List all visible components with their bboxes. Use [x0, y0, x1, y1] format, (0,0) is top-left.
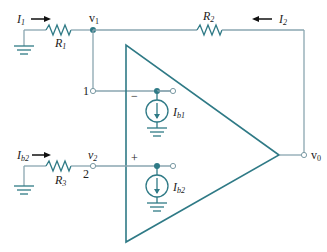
label-node-2: 2 — [83, 167, 89, 181]
ground-symbol-ib1 — [147, 128, 167, 136]
current-source-ib1 — [146, 100, 168, 122]
ground-symbol-r1 — [14, 30, 34, 54]
label-r1: R1 — [54, 36, 66, 51]
ground-symbol-r3 — [14, 186, 34, 194]
label-v0: v0 — [311, 148, 321, 163]
terminal-1 — [90, 88, 95, 93]
terminal-v0 — [301, 152, 306, 157]
circuit-diagram: I1 R1 v1 R2 I2 1 − Ib1 Ib2 v2 2 R3 + Ib2… — [0, 0, 327, 252]
label-r3: R3 — [54, 173, 66, 188]
label-i2: I2 — [278, 12, 287, 27]
resistor-r2 — [197, 25, 222, 35]
resistor-r3 — [46, 161, 71, 171]
label-node-1: 1 — [83, 84, 89, 98]
op-amp-triangle — [126, 45, 279, 242]
label-r2: R2 — [202, 9, 214, 24]
label-v1: v1 — [89, 11, 99, 26]
arrow-i1-icon — [31, 16, 51, 22]
label-ib2: Ib2 — [172, 180, 185, 195]
label-plus: + — [131, 151, 138, 165]
terminal-2 — [90, 163, 95, 168]
label-ib1: Ib1 — [172, 105, 185, 120]
arrow-i2-icon — [252, 16, 272, 22]
ground-symbol-ib2 — [147, 203, 167, 211]
resistor-r1 — [46, 25, 71, 35]
current-source-ib2 — [146, 175, 168, 197]
label-minus: − — [131, 89, 138, 103]
label-i1: I1 — [16, 12, 25, 27]
label-ib2-input: Ib2 — [16, 148, 29, 163]
arrow-ib2-icon — [32, 152, 51, 158]
label-v2: v2 — [88, 148, 97, 163]
